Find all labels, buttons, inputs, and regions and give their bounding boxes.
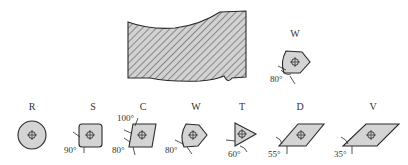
- insert-v: V 35°: [334, 101, 399, 159]
- insert-angle: 90°: [64, 145, 77, 155]
- insert-t: T 60°: [226, 101, 256, 159]
- insert-w: W 80°: [165, 101, 207, 155]
- insert-s: S 90°: [64, 101, 102, 155]
- featured-insert-angle: 80°: [270, 74, 283, 84]
- insert-angle: 35°: [334, 149, 347, 159]
- insert-label: V: [369, 101, 377, 112]
- insert-label: R: [29, 101, 36, 112]
- insert-r: R: [18, 101, 46, 149]
- insert-angle-secondary: 100°: [117, 113, 135, 123]
- insert-shapes-diagram: W 80° R S 90° C 100°: [0, 0, 408, 165]
- insert-d: D 55°: [268, 101, 324, 159]
- insert-label: C: [140, 101, 147, 112]
- featured-insert-label: W: [290, 28, 300, 39]
- insert-angle: 80°: [112, 145, 125, 155]
- insert-label: S: [90, 101, 96, 112]
- featured-insert-w: W 80°: [270, 28, 310, 84]
- insert-label: T: [239, 101, 245, 112]
- insert-angle: 80°: [165, 145, 178, 155]
- insert-angle: 60°: [228, 149, 241, 159]
- workpiece-section: [128, 11, 246, 81]
- insert-angle: 55°: [268, 149, 281, 159]
- insert-label: D: [296, 101, 303, 112]
- insert-c: C 100° 80°: [112, 101, 156, 155]
- insert-label: W: [191, 101, 201, 112]
